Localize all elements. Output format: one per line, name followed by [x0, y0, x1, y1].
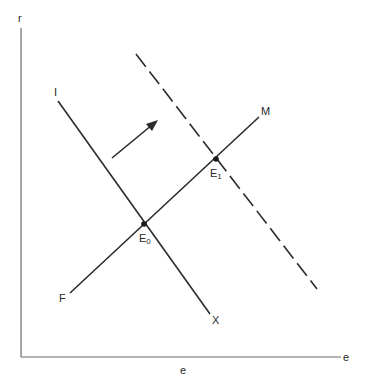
- y-axis-label: r: [18, 12, 22, 24]
- e0-label: E0: [139, 232, 151, 246]
- is-curve-diagram: r e e I X F M E0 E1: [0, 0, 366, 390]
- shifted-dashed-line: [136, 54, 317, 289]
- ix-end-label: X: [212, 314, 220, 326]
- fm-end-label: M: [261, 105, 270, 117]
- fm-start-label: F: [59, 292, 66, 304]
- x-axis-end-label: e: [343, 351, 349, 363]
- x-axis-below-label: e: [180, 364, 186, 376]
- e1-label: E1: [210, 167, 222, 181]
- ix-start-label: I: [54, 86, 57, 98]
- e1-point: [213, 156, 219, 162]
- shift-arrow-shaft: [112, 125, 152, 158]
- fm-line: [70, 117, 259, 293]
- e0-point: [141, 221, 147, 227]
